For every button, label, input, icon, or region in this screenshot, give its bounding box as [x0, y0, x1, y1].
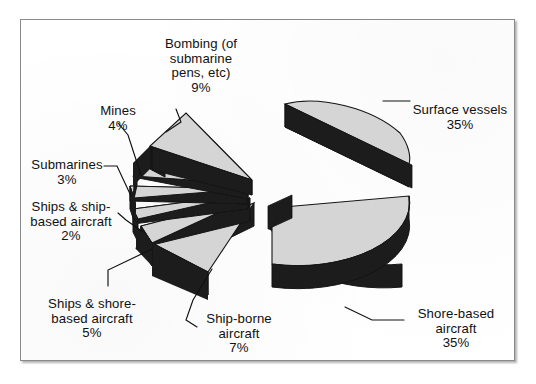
label-mines: Mines 4%	[80, 89, 156, 148]
label-mines-percent: 4%	[80, 119, 156, 134]
label-ships-shore-based-name: Ships & shore- based aircraft	[48, 296, 136, 326]
label-ships-ship-based-aircraft: Ships & ship- based aircraft 2%	[24, 185, 118, 259]
label-submarines-name: Submarines	[31, 157, 102, 172]
label-mines-name: Mines	[100, 103, 136, 118]
label-ship-borne-percent: 7%	[196, 341, 282, 356]
label-bombing-name: Bombing (of submarine pens, etc)	[165, 36, 237, 81]
label-bombing: Bombing (of submarine pens, etc) 9%	[143, 22, 259, 111]
label-surface-vessels-name: Surface vessels	[413, 102, 508, 117]
leader-shore-based	[345, 307, 404, 320]
label-bombing-percent: 9%	[143, 81, 259, 96]
label-ships-shore-based-percent: 5%	[36, 326, 148, 341]
label-shore-based-name: Shore-based aircraft	[418, 306, 495, 336]
label-ships-ship-based-name: Ships & ship- based aircraft	[30, 199, 111, 229]
label-ships-ship-based-percent: 2%	[24, 229, 118, 244]
label-surface-vessels: Surface vessels 35%	[410, 88, 510, 147]
screenshot-root: Bombing (of submarine pens, etc) 9% Mine…	[0, 0, 536, 384]
label-shore-based-percent: 35%	[408, 336, 504, 351]
label-shore-based-aircraft: Shore-based aircraft 35%	[408, 292, 504, 366]
label-ship-borne-aircraft: Ship-borne aircraft 7%	[196, 297, 282, 371]
label-ship-borne-name: Ship-borne aircraft	[206, 311, 272, 341]
label-surface-vessels-percent: 35%	[410, 118, 510, 133]
label-ships-shore-based-aircraft: Ships & shore- based aircraft 5%	[36, 282, 148, 356]
